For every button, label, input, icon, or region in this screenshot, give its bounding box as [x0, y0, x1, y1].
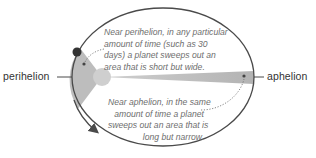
aphelion-marker-icon [242, 74, 245, 77]
perihelion-note-line: days) a planet sweeps out an [104, 50, 228, 62]
aphelion-note: Near aphelion, in the same amount of tim… [108, 97, 204, 143]
perihelion-label: perihelion [3, 70, 50, 82]
aphelion-note-line: Near aphelion, in the same [108, 97, 204, 109]
aphelion-note-line: amount of time a planet [108, 109, 204, 121]
aphelion-label: aphelion [267, 70, 308, 82]
perihelion-note: Near perihelion, in any particular amoun… [104, 27, 228, 73]
aphelion-note-line: sweeps out an area that is [108, 120, 204, 132]
perihelion-marker-icon [82, 62, 85, 65]
perihelion-note-line: area that is short but wide. [104, 62, 228, 74]
perihelion-note-line: Near perihelion, in any particular [104, 27, 228, 39]
aphelion-note-line: long but narrow. [108, 132, 204, 144]
perihelion-note-line: amount of time (such as 30 [104, 39, 228, 51]
planet-icon [73, 48, 82, 57]
